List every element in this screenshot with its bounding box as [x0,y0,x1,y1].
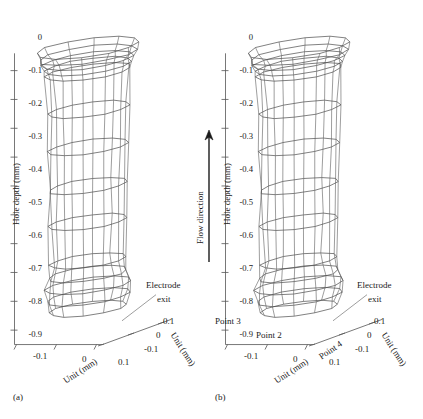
panel-a-xtick-pos: 0.1 [118,358,129,367]
panel-b-ytick-9: -0.9 [221,330,253,339]
panel-b-caption: (b) [215,392,226,402]
panel-a-ztick-pos: 0.1 [163,317,174,326]
point-2-label: Point 2 [256,330,282,340]
panel-b-electrode-label: Electrode [357,281,391,290]
panel-b-graphics [0,0,423,419]
panel-a-ytick-0: 0 [10,33,42,42]
panel-a-caption: (a) [13,392,23,402]
panel-b-ytick-2: -0.2 [221,99,253,108]
panel-b-ytick-3: -0.3 [221,132,253,141]
panel-b-ytick-7: -0.7 [221,264,253,273]
panel-b-ytick-8: -0.8 [221,297,253,306]
panel-b-xtick-neg: -0.1 [244,352,258,361]
panel-a-electrode-label: Electrode [146,281,180,290]
panel-a-ytick-9: -0.9 [10,330,42,339]
panel-b-ztick-zero: 0 [367,331,372,340]
panel-a-ytick-3: -0.3 [10,132,42,141]
panel-b-exit-label: exit [368,295,382,304]
panel-a-ytick-2: -0.2 [10,99,42,108]
panel-a-ytick-6: -0.6 [10,231,42,240]
panel-a-ztick-zero: 0 [156,331,161,340]
panel-b-ztick-pos: 0.1 [374,317,385,326]
panel-b-ytick-5: -0.5 [221,198,253,207]
panel-b-xtick-pos: 0.1 [329,358,340,367]
panel-a-ztick-neg: -0.1 [144,345,158,354]
panel-b-ytick-0: 0 [221,33,253,42]
flow-direction-label: Flow direction [196,191,205,244]
panel-b-ztick-neg: -0.1 [355,345,369,354]
panel-a-ytick-4: -0.4 [10,165,42,174]
panel-a-exit-label: exit [157,295,171,304]
figure-canvas: Hole depth (mm) 0 -0.1 -0.2 -0.3 -0.4 -0… [0,0,423,419]
point-3-label: Point 3 [215,316,241,326]
panel-a-ytick-5: -0.5 [10,198,42,207]
panel-b-ytick-6: -0.6 [221,231,253,240]
panel-a-ytick-7: -0.7 [10,264,42,273]
panel-a-ytick-8: -0.8 [10,297,42,306]
panel-a-xtick-neg: -0.1 [33,352,47,361]
panel-b-ytick-1: -0.1 [221,66,253,75]
panel-a-ytick-1: -0.1 [10,66,42,75]
panel-b-ytick-4: -0.4 [221,165,253,174]
